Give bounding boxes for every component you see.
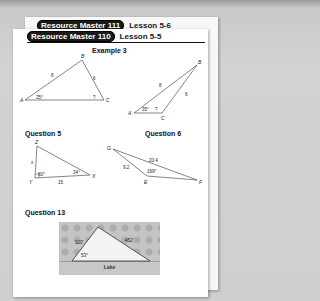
question-13-figure: 320' 452' 53° Lake bbox=[59, 222, 160, 275]
lake-caption: Lake bbox=[59, 264, 160, 270]
svg-text:9.2: 9.2 bbox=[123, 165, 130, 170]
svg-text:F: F bbox=[199, 179, 203, 185]
svg-text:G: G bbox=[107, 145, 111, 151]
svg-text:169°: 169° bbox=[147, 169, 157, 174]
question-13-title: Question 13 bbox=[25, 209, 65, 216]
svg-text:320': 320' bbox=[75, 240, 84, 245]
front-page-resource-master-110: Resource Master 110 Lesson 5-5 Example 3… bbox=[13, 29, 208, 297]
svg-text:E: E bbox=[144, 179, 148, 185]
svg-text:452': 452' bbox=[125, 238, 134, 243]
svg-text:20.4: 20.4 bbox=[149, 158, 158, 163]
svg-text:53°: 53° bbox=[81, 253, 88, 258]
